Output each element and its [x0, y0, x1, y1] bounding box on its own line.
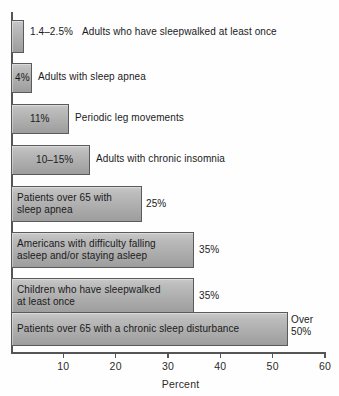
bar-value-label: 1.4–2.5%: [30, 26, 73, 38]
x-tick-mark: [272, 352, 273, 358]
bar-value-label: 35%: [199, 290, 219, 302]
bar-chart: 102030405060 Percent Adults who have sle…: [0, 0, 339, 396]
bar-value-label: 25%: [146, 198, 166, 210]
bar-label: Periodic leg movements: [75, 112, 184, 124]
x-axis-title: Percent: [0, 378, 339, 390]
x-tick-label: 60: [319, 360, 331, 372]
x-tick-mark: [115, 352, 116, 358]
x-axis-title-text: Percent: [140, 378, 200, 390]
bar-label: Adults who have sleepwalked at least onc…: [82, 26, 277, 38]
bar: 4%: [11, 63, 32, 93]
bar-value-label: 11%: [30, 113, 50, 125]
bar-label: Patients over 65 with a chronic sleep di…: [17, 323, 239, 335]
bar-label: Patients over 65 with sleep apnea: [17, 192, 112, 215]
bar: 10–15%: [11, 145, 90, 175]
bar: Americans with difficulty falling asleep…: [11, 232, 194, 268]
x-tick-label: 40: [214, 360, 226, 372]
bar-value-label: Over 50%: [291, 314, 313, 337]
bar: [11, 20, 24, 53]
x-tick-label: 50: [267, 360, 279, 372]
bar-label: Children who have sleepwalked at least o…: [17, 284, 161, 307]
x-tick-label: 10: [57, 360, 69, 372]
bar: 11%: [11, 104, 69, 134]
bar: Children who have sleepwalked at least o…: [11, 278, 194, 314]
x-tick-mark: [63, 352, 64, 358]
bar: Patients over 65 with a chronic sleep di…: [11, 312, 288, 346]
bar-value-label: 4%: [15, 72, 30, 84]
bar-label: Americans with difficulty falling asleep…: [17, 238, 156, 261]
x-tick-label: 30: [162, 360, 174, 372]
x-tick-mark: [324, 352, 325, 358]
x-tick-mark: [220, 352, 221, 358]
x-tick-label: 20: [110, 360, 122, 372]
bar-label: Adults with sleep apnea: [38, 71, 146, 83]
bar-value-label: 10–15%: [36, 154, 73, 166]
bar-value-label: 35%: [199, 244, 219, 256]
x-tick-mark: [167, 352, 168, 358]
bar-label: Adults with chronic insomnia: [96, 153, 225, 165]
bar: Patients over 65 with sleep apnea: [11, 186, 142, 222]
